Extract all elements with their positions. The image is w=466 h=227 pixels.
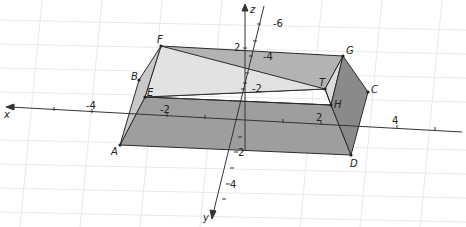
x-tick-4: 4: [392, 115, 398, 126]
label-A: A: [110, 146, 118, 157]
x-tick-neg2: -2: [160, 104, 170, 115]
label-H: H: [334, 99, 342, 110]
y-axis-arrow-icon: [210, 210, 216, 219]
y-tick-4: 4: [230, 179, 236, 190]
y-tick-neg4: -4: [263, 51, 273, 62]
y-tick-neg6: -6: [273, 18, 283, 29]
label-D: D: [350, 158, 358, 169]
prism[interactable]: [120, 46, 368, 155]
label-G: G: [346, 45, 354, 56]
point-G[interactable]: [341, 54, 344, 57]
y-axis-label: y: [202, 212, 210, 223]
z-tick-2: 2: [234, 42, 240, 53]
y-tick-neg2: -2: [252, 83, 262, 94]
3d-graphics-view[interactable]: x z y -4 -2 2 4 2 2 4 -2 -4 -6 A B C D E…: [0, 0, 466, 227]
label-E: E: [147, 87, 154, 98]
z-axis-arrow-icon: [242, 4, 248, 11]
x-tick-2: 2: [316, 112, 322, 123]
point-C[interactable]: [366, 90, 369, 93]
label-T: T: [319, 77, 326, 88]
x-axis-label: x: [3, 109, 10, 120]
label-C: C: [371, 84, 378, 95]
face-AEHD[interactable]: [120, 97, 351, 155]
point-H[interactable]: [329, 103, 332, 106]
z-axis-label: z: [249, 4, 256, 15]
point-A[interactable]: [118, 143, 121, 146]
point-D[interactable]: [349, 153, 352, 156]
label-F: F: [157, 34, 163, 45]
point-B[interactable]: [137, 78, 140, 81]
x-tick-neg4: -4: [86, 100, 96, 111]
y-tick-2: 2: [238, 147, 244, 158]
label-B: B: [131, 71, 138, 82]
